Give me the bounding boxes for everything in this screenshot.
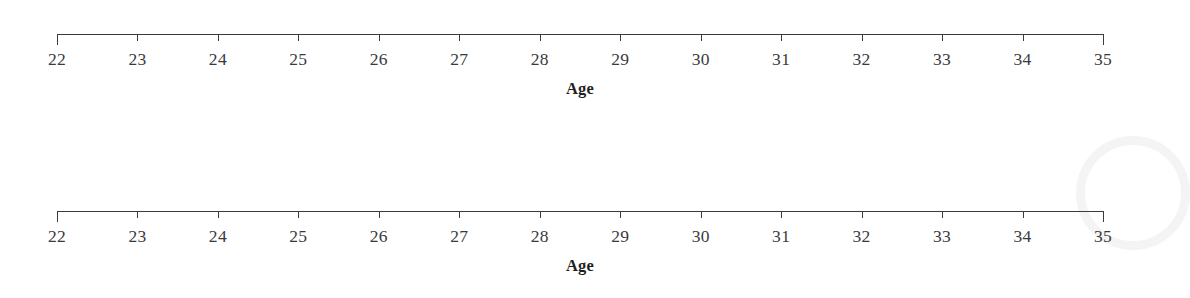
axis-tick-label: 31 <box>772 228 790 246</box>
axis-tick <box>620 34 621 41</box>
axis-tick-label: 33 <box>933 51 951 69</box>
axis-tick-label: 22 <box>48 228 66 246</box>
axis-tick <box>137 211 138 218</box>
axis-tick <box>540 211 541 218</box>
axis-tick <box>379 34 380 41</box>
axis-line-bottom <box>57 211 1103 212</box>
axis-title-age-top: Age <box>57 79 1103 99</box>
axis-tick-label: 29 <box>611 51 629 69</box>
axis-tick-label: 35 <box>1094 228 1112 246</box>
axis-title-age-bottom: Age <box>57 256 1103 276</box>
axis-tick-label: 32 <box>853 228 871 246</box>
axis-tick <box>620 211 621 218</box>
axis-tick-label: 26 <box>370 51 388 69</box>
axis-tick-label: 30 <box>692 51 710 69</box>
axis-tick-label: 28 <box>531 51 549 69</box>
axis-tick-label: 34 <box>1013 51 1031 69</box>
axis-tick <box>1023 34 1024 41</box>
axis-tick <box>781 211 782 218</box>
axis-tick <box>298 34 299 41</box>
axis-tick <box>298 211 299 218</box>
axis-tick-label: 31 <box>772 51 790 69</box>
axis-tick-label: 24 <box>209 51 227 69</box>
axis-tick <box>137 34 138 41</box>
axis-tick <box>701 211 702 218</box>
axis-tick <box>540 34 541 41</box>
axis-tick-label: 35 <box>1094 51 1112 69</box>
axis-tick <box>942 211 943 218</box>
axis-tick-label: 28 <box>531 228 549 246</box>
axis-tick <box>459 34 460 41</box>
axis-tick <box>701 34 702 41</box>
axis-tick <box>1103 211 1104 222</box>
axis-tick-label: 24 <box>209 228 227 246</box>
axis-tick <box>1023 211 1024 218</box>
axis-tick-label: 33 <box>933 228 951 246</box>
axis-tick <box>862 211 863 218</box>
axis-tick-label: 32 <box>853 51 871 69</box>
axis-tick <box>379 211 380 218</box>
axis-tick <box>942 34 943 41</box>
axis-tick <box>57 34 58 45</box>
axis-tick-label: 23 <box>128 228 146 246</box>
axis-tick-label: 29 <box>611 228 629 246</box>
axis-tick-label: 27 <box>450 51 468 69</box>
axis-scale-bottom: 2223242526272829303132333435 <box>57 211 1103 212</box>
axis-tick <box>57 211 58 222</box>
axis-tick <box>218 211 219 218</box>
axis-tick <box>862 34 863 41</box>
axis-tick <box>218 34 219 41</box>
axis-tick-label: 34 <box>1013 228 1031 246</box>
axis-tick-label: 22 <box>48 51 66 69</box>
axis-scale-top: 2223242526272829303132333435 <box>57 34 1103 35</box>
axis-tick <box>1103 34 1104 45</box>
axis-tick-label: 27 <box>450 228 468 246</box>
axis-line-top <box>57 34 1103 35</box>
axis-tick <box>459 211 460 218</box>
axis-tick-label: 30 <box>692 228 710 246</box>
axis-tick <box>781 34 782 41</box>
axis-tick-label: 25 <box>289 228 307 246</box>
axis-tick-label: 25 <box>289 51 307 69</box>
axis-tick-label: 23 <box>128 51 146 69</box>
axis-tick-label: 26 <box>370 228 388 246</box>
